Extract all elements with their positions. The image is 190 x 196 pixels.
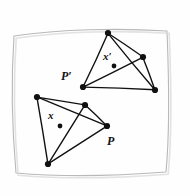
vertex-dot-v4 [80, 84, 86, 90]
vertex-dot-v3 [152, 87, 158, 93]
vertex-dot-w1 [34, 94, 40, 100]
vertex-dot-w4 [45, 161, 51, 167]
upper-set-interior-point [112, 64, 117, 69]
vertex-dot-v2 [140, 54, 146, 60]
interior-dot-x-dot [58, 124, 63, 129]
label-x-prime: x′ [103, 51, 112, 62]
diagram-canvas: P′ P x′ x [0, 0, 190, 196]
vertex-dot-v1 [105, 30, 111, 36]
point-set-figure [0, 0, 190, 196]
label-x: x [48, 110, 54, 121]
vertex-dot-w2 [82, 102, 88, 108]
interior-dot-x-prime-dot [112, 64, 117, 69]
label-p-prime: P′ [61, 70, 72, 82]
lower-set-interior-point [58, 124, 63, 129]
vertex-dot-w3 [104, 123, 110, 129]
label-p: P [107, 135, 114, 147]
